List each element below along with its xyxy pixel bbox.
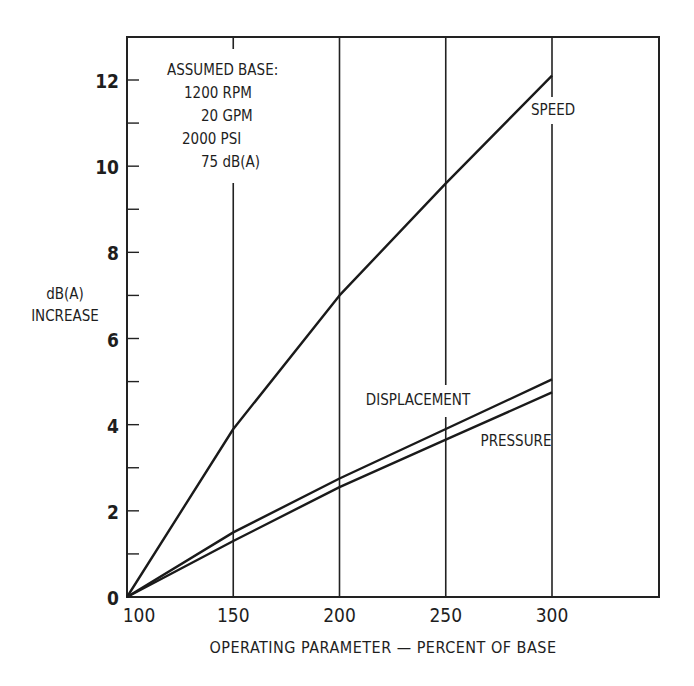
series-label-speed: SPEED [531,101,575,119]
y-tick-label: 12 [95,70,119,92]
annotation-line: 20 GPM [201,107,253,125]
x-tick-label: 250 [429,604,462,626]
x-tick-label: 200 [323,604,356,626]
annotation-line: 75 dB(A) [201,153,260,171]
y-tick-label: 10 [95,156,119,178]
series-label-displacement: DISPLACEMENT [366,391,471,409]
y-tick-label: 0 [107,587,119,609]
annotation-title: ASSUMED BASE: [167,61,278,79]
x-tick-label: 100 [123,604,156,626]
annotation-line: 2000 PSI [182,130,241,148]
y-axis-label-line1: dB(A) [46,285,84,303]
x-axis-label: OPERATING PARAMETER — PERCENT OF BASE [209,638,556,657]
chart: 024681012100150200250300OPERATING PARAME… [0,0,694,686]
x-tick-label: 150 [217,604,250,626]
y-tick-label: 2 [107,501,119,523]
y-tick-label: 8 [107,242,119,264]
y-tick-label: 6 [107,329,119,351]
series-label-pressure: PRESSURE [481,432,552,450]
y-axis-label-line2: INCREASE [31,307,99,325]
annotation-line: 1200 RPM [184,84,252,102]
y-tick-label: 4 [107,415,119,437]
x-tick-label: 300 [536,604,569,626]
